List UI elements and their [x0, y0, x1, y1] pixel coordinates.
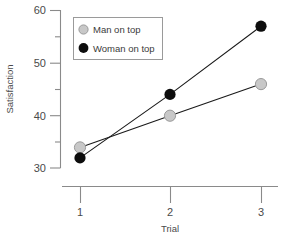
y-axis: 60 50 40 30 Satisfaction	[4, 4, 61, 174]
y-tick-label-40: 40	[34, 110, 46, 122]
y-tick-label-30: 30	[34, 162, 46, 174]
y-tick-label-50: 50	[34, 57, 46, 69]
data-point-woman-trial-3	[255, 21, 266, 32]
x-axis: 1 2 3 Trial	[62, 187, 278, 235]
y-axis-title: Satisfaction	[4, 64, 15, 113]
data-point-man-trial-1	[74, 142, 85, 153]
y-tick-label-60: 60	[34, 4, 46, 16]
data-point-woman-trial-2	[164, 89, 175, 100]
satisfaction-trial-line-chart: 60 50 40 30 Satisfaction 1	[0, 0, 292, 238]
legend: Man on top Woman on top	[74, 18, 163, 60]
legend-label-man-on-top: Man on top	[93, 24, 141, 35]
data-point-man-trial-3	[255, 79, 266, 90]
x-axis-title: Trial	[161, 223, 179, 234]
x-tick-label-1: 1	[77, 206, 83, 218]
x-tick-label-2: 2	[167, 206, 173, 218]
gray-circle-marker-icon	[79, 25, 88, 34]
black-circle-marker-icon	[79, 43, 89, 53]
data-point-man-trial-2	[164, 110, 175, 121]
chart-canvas: 60 50 40 30 Satisfaction 1	[0, 0, 292, 238]
legend-label-woman-on-top: Woman on top	[93, 43, 155, 54]
data-point-woman-trial-1	[74, 152, 85, 163]
x-tick-label-3: 3	[258, 206, 264, 218]
